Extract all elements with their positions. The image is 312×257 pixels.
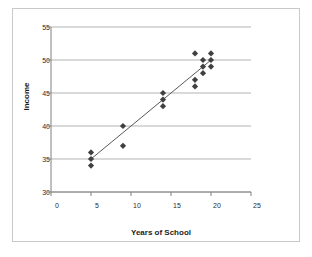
trendline-segment [91,60,211,159]
plot-canvas [0,0,312,257]
data-point [192,50,198,56]
data-point [160,103,166,109]
data-point [160,90,166,96]
data-point [120,123,126,129]
data-point [88,149,94,155]
data-point [200,57,206,63]
scatter-chart: 55 50 45 40 35 30 0 5 10 15 20 25 Years … [0,0,312,257]
data-point [208,64,214,70]
data-point [120,143,126,149]
trendline [91,60,211,159]
data-point [192,83,198,89]
data-point [192,77,198,83]
data-point [200,70,206,76]
data-point [208,50,214,56]
data-point [88,163,94,169]
